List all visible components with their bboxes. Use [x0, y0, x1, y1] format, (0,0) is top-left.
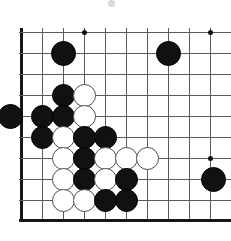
- white-stone[interactable]: [94, 168, 117, 191]
- hoshi-top-right-star-point-icon: [208, 30, 213, 35]
- grid-line-vertical: [210, 28, 211, 221]
- go-board-diagram: [0, 0, 231, 241]
- white-stone[interactable]: [73, 189, 96, 212]
- grid-line-horizontal: [19, 74, 231, 75]
- white-stone[interactable]: [115, 147, 138, 170]
- black-stone[interactable]: [73, 126, 96, 149]
- white-stone[interactable]: [52, 168, 75, 191]
- grid-line-horizontal: [19, 95, 231, 96]
- white-stone[interactable]: [136, 147, 159, 170]
- grid-line-vertical: [189, 28, 190, 221]
- grid-line-horizontal: [19, 32, 231, 33]
- black-stone[interactable]: [73, 147, 96, 170]
- black-stone[interactable]: [94, 189, 117, 212]
- black-stone[interactable]: [73, 168, 96, 191]
- black-stone[interactable]: [94, 126, 117, 149]
- black-stone[interactable]: [52, 84, 75, 107]
- go-board[interactable]: [0, 0, 231, 241]
- board-bottom-border: [19, 219, 231, 222]
- black-stone[interactable]: [51, 41, 76, 66]
- board-left-border: [20, 28, 23, 221]
- black-stone[interactable]: [156, 41, 181, 66]
- black-stone[interactable]: [115, 189, 138, 212]
- scan-speck-top: [108, 0, 115, 7]
- hoshi-top-left-star-point-icon: [82, 30, 87, 35]
- black-stone[interactable]: [115, 168, 138, 191]
- white-stone[interactable]: [52, 147, 75, 170]
- white-stone[interactable]: [73, 84, 96, 107]
- black-stone[interactable]: [201, 167, 226, 192]
- black-stone[interactable]: [31, 105, 54, 128]
- white-stone[interactable]: [73, 105, 96, 128]
- white-stone[interactable]: [94, 147, 117, 170]
- grid-line-vertical: [147, 28, 148, 221]
- hoshi-bottom-right-star-point-icon: [208, 156, 213, 161]
- white-stone[interactable]: [52, 126, 75, 149]
- black-stone[interactable]: [31, 126, 54, 149]
- white-stone[interactable]: [52, 189, 75, 212]
- black-stone[interactable]: [52, 105, 75, 128]
- black-stone[interactable]: [0, 104, 23, 129]
